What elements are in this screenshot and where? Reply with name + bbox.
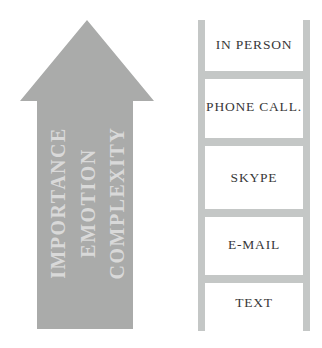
ladder-rail-left — [198, 20, 205, 331]
ladder-rung — [198, 275, 310, 283]
ladder-label-phone-call: PHONE CALL. — [205, 99, 303, 115]
ladder-rung — [198, 209, 310, 217]
ladder-rung — [198, 71, 310, 79]
arrow-label-complexity: COMPLEXITY — [106, 127, 129, 280]
arrow-label-importance: IMPORTANCE — [47, 127, 70, 279]
arrow-label-emotion: EMOTION — [77, 148, 100, 257]
ladder-label-email: E-MAIL — [205, 237, 303, 253]
ladder-rail-right — [303, 20, 310, 331]
ladder-rung — [198, 138, 310, 146]
communication-ladder-figure: IMPORTANCE EMOTION COMPLEXITY IN PERSON … — [0, 0, 322, 348]
ladder-label-in-person: IN PERSON — [205, 37, 303, 53]
ladder-label-skype: SKYPE — [205, 170, 303, 186]
ladder-label-text: TEXT — [205, 295, 303, 311]
